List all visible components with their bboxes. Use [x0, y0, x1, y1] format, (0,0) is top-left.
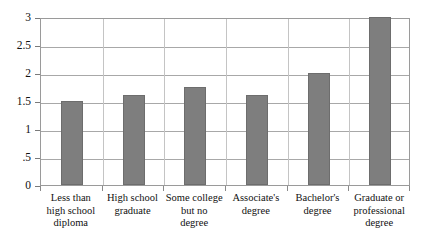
- bar: [61, 101, 83, 185]
- bar: [369, 17, 391, 185]
- x-category-label-line: Less than: [40, 192, 102, 205]
- x-tick-mark: [163, 186, 164, 191]
- x-category-label-line: degree: [163, 217, 225, 230]
- x-category-label: Associate'sdegree: [225, 192, 287, 217]
- x-category-label-line: High school: [102, 192, 164, 205]
- category-separator: [226, 19, 227, 185]
- gridline: [41, 47, 409, 48]
- x-category-label-line: Associate's: [225, 192, 287, 205]
- x-tick-mark: [102, 186, 103, 191]
- bar: [308, 73, 330, 185]
- category-separator: [164, 19, 165, 185]
- x-tick-mark: [409, 186, 410, 191]
- x-category-label-line: professional: [348, 205, 410, 218]
- y-tick-label: .5: [22, 152, 31, 164]
- y-tick-label: 1.5: [17, 96, 31, 108]
- category-separator: [103, 19, 104, 185]
- x-category-label-line: degree: [225, 205, 287, 218]
- x-category-label-line: Graduate or: [348, 192, 410, 205]
- category-separator: [349, 19, 350, 185]
- x-tick-mark: [40, 186, 41, 191]
- plot-area: [40, 18, 410, 186]
- x-category-label: Some collegebut nodegree: [163, 192, 225, 230]
- gridline: [41, 103, 409, 104]
- bar-chart-figure: 0.511.522.53 Less thanhigh schooldiploma…: [0, 0, 444, 238]
- x-category-label: Graduate orprofessionaldegree: [348, 192, 410, 230]
- x-category-label: Bachelor'sdegree: [287, 192, 349, 217]
- gridline: [41, 131, 409, 132]
- y-tick-label: 0: [25, 180, 31, 192]
- x-category-label-line: degree: [287, 205, 349, 218]
- x-axis-labels: Less thanhigh schooldiplomaHigh schoolgr…: [40, 192, 410, 238]
- x-tick-mark: [348, 186, 349, 191]
- x-category-label-line: but no: [163, 205, 225, 218]
- x-category-label-line: Some college: [163, 192, 225, 205]
- x-category-label-line: graduate: [102, 205, 164, 218]
- bar: [184, 87, 206, 185]
- gridline: [41, 75, 409, 76]
- y-tick-label: 3: [25, 12, 31, 24]
- y-tick-label: 2.5: [17, 40, 31, 52]
- x-category-label-line: diploma: [40, 217, 102, 230]
- x-category-label: High schoolgraduate: [102, 192, 164, 217]
- x-tick-mark: [225, 186, 226, 191]
- gridline: [41, 159, 409, 160]
- y-tick-label: 1: [25, 124, 31, 136]
- x-category-label-line: high school: [40, 205, 102, 218]
- y-tick-label: 2: [25, 68, 31, 80]
- x-tick-mark: [287, 186, 288, 191]
- bar: [246, 95, 268, 185]
- y-axis: 0.511.522.53: [0, 0, 40, 238]
- category-separator: [288, 19, 289, 185]
- x-category-label-line: degree: [348, 217, 410, 230]
- bar: [123, 95, 145, 185]
- x-category-label-line: Bachelor's: [287, 192, 349, 205]
- x-category-label: Less thanhigh schooldiploma: [40, 192, 102, 230]
